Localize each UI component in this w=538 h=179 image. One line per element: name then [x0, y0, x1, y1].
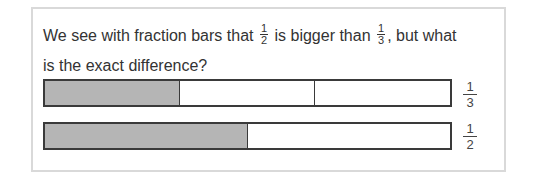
fraction-one-third: 13 [377, 23, 385, 46]
fraction-one-half: 12 [260, 23, 268, 46]
bar-segment [248, 124, 451, 148]
fraction-bar-halves [43, 122, 452, 150]
question-part-2: is bigger than [275, 27, 371, 44]
bar-segment [180, 81, 315, 105]
bar-segment [315, 81, 450, 105]
fraction-bar-thirds [43, 79, 452, 107]
question-text: We see with fraction bars that 12 is big… [43, 21, 463, 81]
bar-segment-shaded [45, 81, 180, 105]
bar-label-one-half: 1 2 [463, 122, 477, 151]
bar-segment-shaded [45, 124, 248, 148]
bar-label-one-third: 1 3 [463, 80, 477, 109]
question-part-1: We see with fraction bars that [43, 27, 253, 44]
